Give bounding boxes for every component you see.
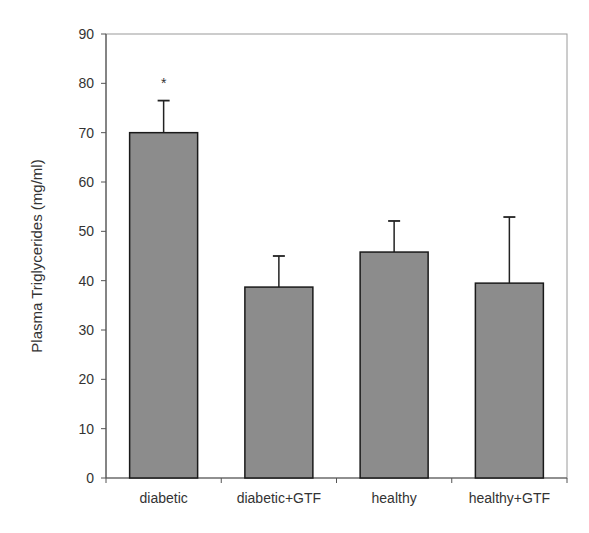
- bar: [475, 283, 543, 478]
- y-tick-label: 50: [78, 223, 94, 239]
- bar: [130, 133, 198, 478]
- y-axis-label: Plasma Triglycerides (mg/ml): [28, 159, 45, 352]
- bar-group: healthy+GTF: [469, 217, 550, 506]
- y-tick-label: 20: [78, 371, 94, 387]
- bar-group: diabetic*: [130, 75, 198, 506]
- x-tick-label: diabetic+GTF: [237, 490, 321, 506]
- y-axis: 0102030405060708090: [78, 26, 106, 486]
- x-tick-label: healthy: [372, 490, 417, 506]
- significance-marker: *: [161, 75, 167, 91]
- y-tick-label: 10: [78, 421, 94, 437]
- bar: [360, 252, 428, 478]
- y-tick-label: 80: [78, 75, 94, 91]
- x-tick-label: diabetic: [139, 490, 187, 506]
- x-tick-label: healthy+GTF: [469, 490, 550, 506]
- bar-group: healthy: [360, 221, 428, 506]
- y-tick-label: 30: [78, 322, 94, 338]
- bar-chart: 0102030405060708090 diabetic*diabetic+GT…: [0, 0, 589, 533]
- y-tick-label: 70: [78, 125, 94, 141]
- bars: diabetic*diabetic+GTFhealthyhealthy+GTF: [130, 75, 550, 506]
- y-tick-label: 60: [78, 174, 94, 190]
- bar: [245, 287, 313, 478]
- y-tick-label: 40: [78, 273, 94, 289]
- y-tick-label: 0: [86, 470, 94, 486]
- bar-group: diabetic+GTF: [237, 256, 321, 506]
- y-tick-label: 90: [78, 26, 94, 42]
